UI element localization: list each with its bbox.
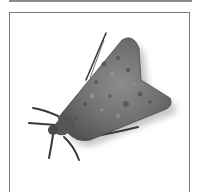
- moth-illustration: [0, 0, 197, 192]
- moth-head: [48, 125, 58, 135]
- moth-wing: [58, 38, 171, 141]
